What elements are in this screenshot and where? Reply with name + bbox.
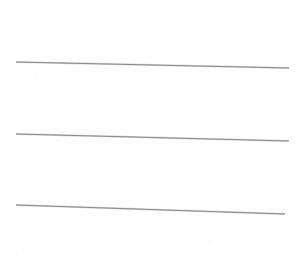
middle-line	[16, 134, 289, 141]
top-line	[16, 62, 289, 68]
ruled-lines-layer	[0, 0, 295, 274]
ruled-line-group-3	[16, 205, 285, 214]
bottom-line	[16, 205, 285, 214]
page-canvas: Scanned Ruled Lines Three thin horizonta…	[0, 0, 295, 274]
ruled-lines-svg	[0, 0, 295, 274]
ruled-line-group-1	[16, 62, 289, 68]
ruled-line-group-2	[16, 134, 289, 141]
